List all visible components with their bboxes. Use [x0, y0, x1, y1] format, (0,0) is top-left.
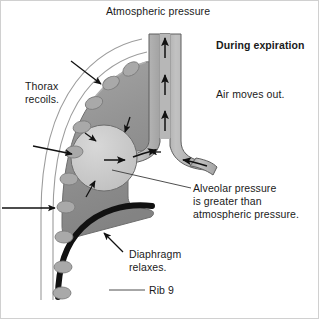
label-thorax-recoils-line2: recoils. [25, 93, 59, 106]
label-alveolar-line2: is greater than [193, 195, 262, 208]
label-air-moves-out: Air moves out. [216, 88, 285, 101]
label-alveolar-line3: atmospheric pressure. [193, 208, 299, 221]
label-alveolar-line1: Alveolar pressure [193, 182, 276, 195]
leader-diaphragm [104, 233, 123, 252]
alveolus [71, 125, 137, 191]
respiration-expiration-diagram: Atmospheric pressure During expiration A… [0, 0, 319, 319]
label-atmospheric-pressure: Atmospheric pressure [106, 5, 210, 18]
label-diaphragm-line2: relaxes. [129, 261, 167, 274]
label-thorax-recoils-line1: Thorax [25, 80, 58, 93]
label-rib9: Rib 9 [149, 284, 174, 297]
label-during-expiration: During expiration [216, 39, 305, 52]
label-diaphragm-line1: Diaphragm [129, 248, 181, 261]
